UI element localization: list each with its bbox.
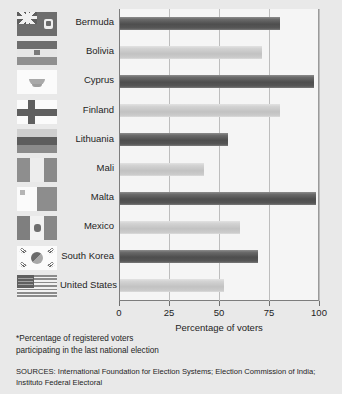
band-green	[17, 137, 57, 145]
chart-row: Cyprus	[0, 67, 342, 96]
sources-line-1: SOURCES: International Foundation for El…	[16, 366, 334, 377]
bar-malta	[120, 192, 316, 205]
sources-line-2: Instituto Federal Electoral	[16, 377, 334, 388]
x-tick-25	[169, 301, 170, 306]
chart-row: South Korea	[0, 243, 342, 272]
chart-row: Malta	[0, 184, 342, 213]
flag-icon-mali	[17, 158, 57, 182]
stripe-6	[17, 292, 57, 294]
flag-icon-bolivia	[17, 41, 57, 65]
stripe-5	[17, 289, 57, 291]
trigram-2	[47, 247, 54, 254]
flag-finland	[17, 100, 57, 124]
chart-row: Mexico	[0, 213, 342, 242]
flag-south-korea	[17, 246, 57, 270]
bar-united-states	[120, 279, 224, 292]
flag-icon-mexico	[17, 216, 57, 240]
taegeuk	[31, 252, 43, 264]
olive-branches	[32, 84, 42, 87]
election-turnout-figure: BermudaBoliviaCyprusFinlandLithuaniaMali…	[0, 0, 342, 394]
cross-horizontal	[17, 109, 57, 116]
category-label: Lithuania	[60, 133, 114, 144]
category-label: Bermuda	[60, 16, 114, 27]
flag-icon-finland	[17, 100, 57, 124]
chart-row: United States	[0, 272, 342, 301]
flag-icon-united-states	[17, 275, 57, 299]
stripe-7	[17, 295, 57, 297]
band-red	[44, 216, 57, 240]
bar-cyprus	[120, 75, 314, 88]
band-red	[37, 187, 57, 211]
bar-south-korea	[120, 250, 258, 263]
crest-lion	[46, 21, 51, 26]
band-green	[17, 158, 30, 182]
x-axis-title: Percentage of voters	[119, 322, 319, 333]
band-bottom	[17, 57, 57, 65]
george-cross	[20, 190, 25, 195]
category-label: South Korea	[60, 250, 114, 261]
category-label: Cyprus	[60, 74, 114, 85]
flag-bermuda	[17, 12, 57, 36]
chart-row: Bermuda	[0, 9, 342, 38]
x-tick-label-100: 100	[311, 307, 327, 318]
chart-row: Lithuania	[0, 126, 342, 155]
x-tick-50	[219, 301, 220, 306]
flag-icon-malta	[17, 187, 57, 211]
footnote-line-2: participating in the last national elect…	[16, 345, 236, 357]
flag-icon-lithuania	[17, 129, 57, 153]
footnote-line-1: *Percentage of registered voters	[16, 333, 236, 345]
x-tick-label-0: 0	[116, 307, 121, 318]
cross-vertical	[28, 100, 35, 124]
sources-note: SOURCES: International Foundation for El…	[16, 366, 334, 388]
x-tick-label-75: 75	[264, 307, 275, 318]
flag-malta	[17, 187, 57, 211]
stars	[18, 276, 33, 287]
flag-icon-south-korea	[17, 246, 57, 270]
chart-row: Mali	[0, 155, 342, 184]
trigram-1	[19, 247, 26, 254]
x-tick-label-50: 50	[214, 307, 225, 318]
flag-mali	[17, 158, 57, 182]
flag-bolivia	[17, 41, 57, 65]
bar-mexico	[120, 221, 240, 234]
footnote: *Percentage of registered voters partici…	[16, 333, 236, 356]
band-top	[17, 41, 57, 49]
cross-v	[26, 12, 29, 24]
union-jack-canton	[17, 12, 37, 24]
band-green	[17, 216, 30, 240]
bar-bermuda	[120, 17, 280, 30]
bar-finland	[120, 104, 280, 117]
trigram-4	[47, 261, 54, 268]
category-label: Malta	[60, 191, 114, 202]
bar-chart: BermudaBoliviaCyprusFinlandLithuaniaMali…	[0, 0, 342, 310]
category-label: Finland	[60, 104, 114, 115]
bar-bolivia	[120, 46, 262, 59]
bar-mali	[120, 163, 204, 176]
x-tick-0	[119, 301, 120, 306]
flag-icon-bermuda	[17, 12, 57, 36]
eagle-emblem	[34, 224, 41, 232]
chart-row: Bolivia	[0, 38, 342, 67]
coat-of-arms	[34, 50, 40, 55]
x-tick-75	[269, 301, 270, 306]
category-label: Mexico	[60, 220, 114, 231]
flag-cyprus	[17, 70, 57, 94]
category-label: Bolivia	[60, 45, 114, 56]
band-yellow	[30, 158, 44, 182]
flag-mexico	[17, 216, 57, 240]
bar-lithuania	[120, 133, 228, 146]
category-label: Mali	[60, 162, 114, 173]
band-red	[44, 158, 57, 182]
band-yellow	[17, 129, 57, 137]
flag-lithuania	[17, 129, 57, 153]
flag-icon-cyprus	[17, 70, 57, 94]
x-tick-100	[319, 301, 320, 306]
category-label: United States	[60, 279, 114, 290]
x-tick-label-25: 25	[164, 307, 175, 318]
flag-united-states	[17, 275, 57, 299]
chart-row: Finland	[0, 97, 342, 126]
band-red	[17, 145, 57, 153]
trigram-3	[19, 261, 26, 268]
